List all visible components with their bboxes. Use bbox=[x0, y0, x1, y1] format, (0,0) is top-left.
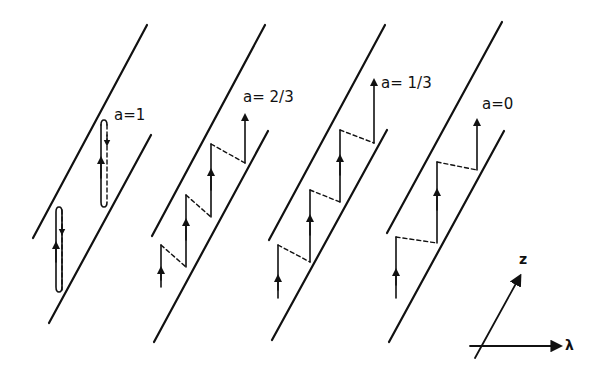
boundary-line-upper bbox=[152, 25, 265, 236]
diagram-svg bbox=[0, 0, 604, 377]
panel-a23 bbox=[152, 25, 268, 342]
label-z-axis: z bbox=[519, 252, 527, 266]
panel-a13 bbox=[269, 25, 387, 340]
label-a0: a=0 bbox=[482, 97, 513, 112]
boundary-line-lower bbox=[272, 130, 387, 340]
label-a1: a=1 bbox=[114, 108, 145, 123]
label-lambda-axis: λ bbox=[565, 338, 574, 352]
diagram-canvas: a=1 a= 2/3 a= 1/3 a=0 z λ bbox=[0, 0, 604, 377]
boundary-line-upper bbox=[387, 22, 502, 233]
boundary-line-lower bbox=[389, 131, 504, 342]
label-a13: a= 1/3 bbox=[381, 76, 432, 91]
panel-a1 bbox=[33, 25, 151, 323]
axis-indicator bbox=[470, 278, 558, 358]
panel-a0 bbox=[387, 22, 504, 342]
boundary-line-upper bbox=[33, 25, 147, 238]
loop-path bbox=[56, 207, 62, 292]
boundary-line-lower bbox=[49, 135, 151, 323]
label-a23: a= 2/3 bbox=[243, 90, 294, 105]
boundary-line-upper bbox=[269, 25, 385, 240]
